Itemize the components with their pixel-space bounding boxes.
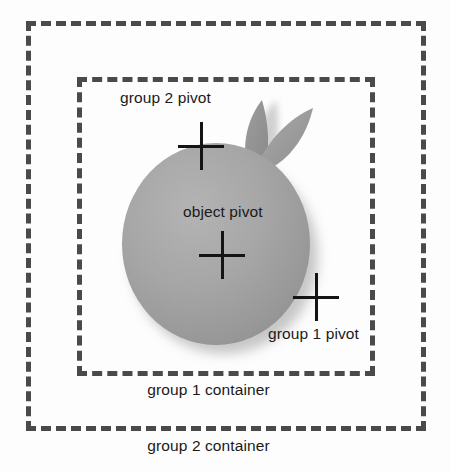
cross-vertical-bar <box>200 122 203 170</box>
group-1-pivot-label: group 1 pivot <box>268 325 359 342</box>
cross-vertical-bar <box>221 231 224 279</box>
group-2-container-label: group 2 container <box>0 437 434 454</box>
cross-vertical-bar <box>315 273 318 321</box>
group-2-pivot-label: group 2 pivot <box>120 89 211 106</box>
object-pivot-label: object pivot <box>183 203 263 220</box>
diagram-canvas: group 2 pivot object pivot group 1 pivot… <box>0 0 451 472</box>
group-1-container-label: group 1 container <box>0 381 434 398</box>
